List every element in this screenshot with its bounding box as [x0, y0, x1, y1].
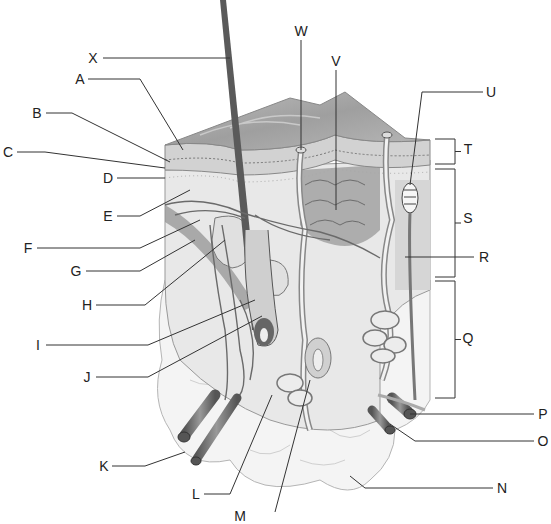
label-c: C [3, 145, 13, 159]
label-m: M [234, 509, 246, 523]
label-v: V [331, 54, 340, 68]
meissner-corpuscle [402, 183, 418, 213]
leader-line-a [88, 79, 183, 150]
label-s: S [463, 211, 472, 225]
skin-surface [165, 92, 430, 150]
label-e: E [103, 209, 112, 223]
label-l: L [192, 487, 200, 501]
bracket-q [435, 281, 461, 398]
label-j: J [84, 370, 91, 384]
leader-line-o [390, 424, 534, 441]
label-d: D [103, 171, 113, 185]
label-g: G [71, 264, 82, 278]
label-o: O [538, 434, 549, 448]
label-x: X [88, 51, 97, 65]
label-u: U [486, 85, 496, 99]
bracket-t [435, 139, 461, 164]
label-p: P [538, 407, 547, 421]
label-h: H [82, 298, 92, 312]
leader-line-c [17, 152, 165, 168]
leader-line-k [112, 452, 185, 466]
label-k: K [99, 459, 108, 473]
label-q: Q [463, 331, 474, 345]
bracket-s [435, 169, 461, 277]
label-b: B [32, 106, 41, 120]
label-i: I [36, 338, 40, 352]
label-t: T [464, 142, 473, 156]
label-w: W [294, 24, 307, 38]
label-r: R [479, 250, 489, 264]
label-n: N [497, 481, 507, 495]
label-f: F [24, 241, 33, 255]
label-a: A [75, 72, 84, 86]
layer-brackets [435, 139, 461, 398]
